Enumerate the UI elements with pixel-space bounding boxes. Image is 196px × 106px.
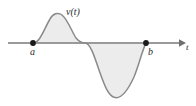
t-axis-label: t	[186, 43, 189, 52]
figure-container: v(t) a b t	[0, 0, 196, 106]
point-b-label: b	[148, 47, 153, 57]
curve-label-v-of-t: v(t)	[66, 7, 80, 17]
t-axis-arrowhead	[179, 39, 186, 46]
point-a-label: a	[30, 47, 35, 57]
